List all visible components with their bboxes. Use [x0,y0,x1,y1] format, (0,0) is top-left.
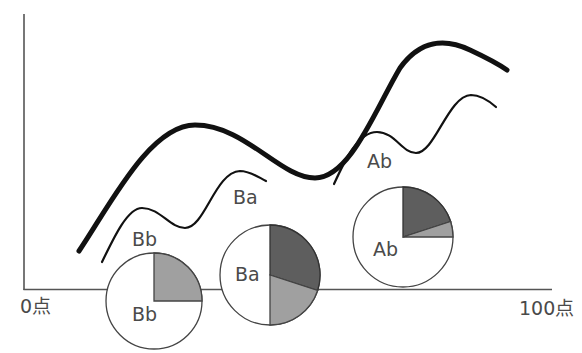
pie-ab [353,187,453,287]
x-axis-max-label: 100点 [519,299,574,318]
pie-label-ab: Ab [373,240,398,259]
curve-label-ab: Ab [367,152,392,171]
pie-bb-medium-slice [154,253,202,301]
pie-label-bb: Bb [132,305,157,324]
curve-label-ba: Ba [233,188,258,207]
pie-label-ba: Ba [235,265,260,284]
x-axis-min-label: 0点 [20,297,51,316]
pie-bb [106,253,202,349]
curve-label-bb: Bb [132,230,157,249]
diagram-canvas [0,0,582,353]
